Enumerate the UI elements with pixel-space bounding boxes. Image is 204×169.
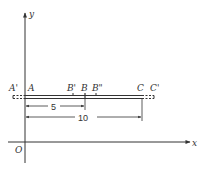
dimension-ab: 5	[26, 102, 84, 112]
point-label-a-prime: A'	[8, 83, 18, 93]
point-label-b: B	[80, 83, 88, 93]
point-label-b-double-prime: B"	[91, 83, 103, 93]
x-axis-label: x	[192, 138, 197, 148]
point-label-b-prime: B'	[66, 83, 76, 93]
dimension-ab-label: 5	[51, 102, 56, 112]
point-label-c: C	[137, 83, 144, 93]
point-label-c-prime: C'	[150, 83, 159, 93]
dimension-ac: 10	[26, 113, 141, 123]
x-axis: x	[8, 138, 197, 148]
rod	[25, 96, 142, 99]
point-label-a: A	[27, 83, 35, 93]
origin-label: O	[15, 145, 23, 155]
rod-extension-left	[13, 96, 25, 99]
y-axis-label: y	[28, 9, 35, 19]
dimension-ac-label: 10	[78, 113, 88, 123]
rod-extension-right	[142, 96, 154, 99]
rod-on-axes-diagram: y x O A' A B' B B" C C' 5	[0, 0, 204, 169]
